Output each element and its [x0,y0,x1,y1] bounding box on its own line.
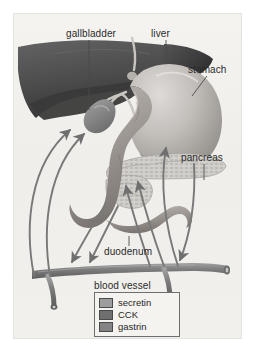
label-duodenum: duodenum [104,246,152,257]
legend-label-secretin: secretin [118,298,151,308]
figure-root: gallbladder liver stomach pancreas duode… [0,0,253,350]
legend-item-gastrin: gastrin [99,321,174,332]
legend-label-cck: CCK [118,310,138,320]
legend-item-secretin: secretin [99,297,174,308]
diagram-plate: gallbladder liver stomach pancreas duode… [13,13,242,339]
label-liver: liver [151,28,170,39]
label-stomach: stomach [188,64,227,75]
legend-swatch-gastrin [99,322,113,332]
label-pancreas: pancreas [181,152,223,163]
legend: secretin CCK gastrin [94,292,180,337]
label-blood-vessel: blood vessel [94,280,151,291]
legend-swatch-secretin [99,298,113,308]
legend-label-gastrin: gastrin [118,322,147,332]
legend-item-cck: CCK [99,309,174,320]
label-gallbladder: gallbladder [66,28,116,39]
legend-swatch-cck [99,310,113,320]
